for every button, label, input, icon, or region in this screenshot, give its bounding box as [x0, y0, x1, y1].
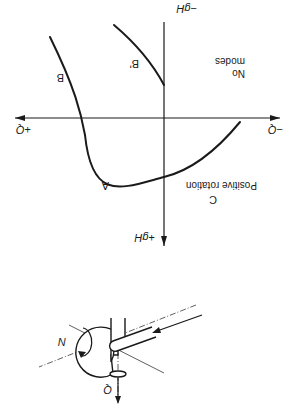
- label-pump-q: Q: [103, 384, 112, 396]
- q-axis-arrow-positive: [15, 115, 25, 121]
- curve-c: [164, 122, 240, 177]
- pump-sketch: Q N: [39, 305, 202, 404]
- q-axis-arrow-negative: [270, 115, 280, 121]
- label-plus-gh: +gH: [134, 232, 155, 244]
- label-curve-c: C: [209, 194, 217, 206]
- label-pump-n: N: [58, 336, 66, 348]
- label-plus-q: +Q: [16, 124, 31, 136]
- curve-b: [50, 37, 85, 135]
- inlet-flow-arrow-icon: [152, 327, 161, 333]
- outlet-flow-arrow-icon: [115, 396, 121, 404]
- pump-outlet-opening: [110, 371, 126, 377]
- label-curve-b: B: [57, 72, 64, 84]
- label-curve-a: A: [101, 180, 109, 192]
- gh-axis-arrow-positive: [161, 236, 167, 246]
- four-quadrant-chart: +Q −Q +gH −gH Positive rotation No modes…: [15, 3, 283, 246]
- label-minus-q: −Q: [268, 124, 283, 136]
- label-no-modes-2: modes: [215, 56, 245, 67]
- pump-characteristic-figure: +Q −Q +gH −gH Positive rotation No modes…: [0, 0, 297, 418]
- curve-b-prime: [114, 25, 164, 85]
- label-curve-b-prime: B': [130, 58, 139, 70]
- label-minus-gh: −gH: [176, 3, 197, 15]
- curve-a: [85, 135, 164, 187]
- label-positive-rotation: Positive rotation: [186, 180, 257, 191]
- label-no-modes-1: No: [232, 68, 245, 79]
